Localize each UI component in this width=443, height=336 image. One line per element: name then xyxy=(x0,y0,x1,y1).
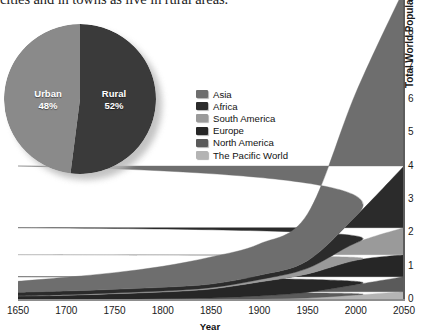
figure-page: cities and in towns as live in rural are… xyxy=(0,0,443,336)
x-axis-tick-label: 1700 xyxy=(46,305,86,316)
pie-slice-name-urban: Urban xyxy=(34,88,61,99)
y-axis-tick-label: 2 xyxy=(408,226,422,237)
legend-item: The Pacific World xyxy=(196,149,316,161)
pie-slice-label-rural: Rural 52% xyxy=(86,88,142,111)
x-axis-tick-label: 1800 xyxy=(143,305,183,316)
chart-legend: AsiaAfricaSouth AmericaEuropeNorth Ameri… xyxy=(196,88,316,161)
x-axis-tick-label: 1900 xyxy=(239,305,279,316)
y-axis-tick-label: 3 xyxy=(408,193,422,204)
legend-item: Europe xyxy=(196,125,316,137)
x-axis-line xyxy=(18,299,405,301)
legend-item-label: Asia xyxy=(213,89,232,100)
y-axis-tick-label: 0 xyxy=(408,293,422,304)
pie-slice-percent-rural: 52% xyxy=(104,100,123,111)
legend-item: North America xyxy=(196,137,316,149)
legend-item-label: The Pacific World xyxy=(213,150,288,161)
legend-item-label: South America xyxy=(213,113,275,124)
legend-item: South America xyxy=(196,112,316,124)
legend-swatch-icon xyxy=(196,139,208,147)
pie-slice-label-urban: Urban 48% xyxy=(20,88,76,111)
legend-item-label: Europe xyxy=(213,125,244,136)
pie-slice-percent-urban: 48% xyxy=(38,100,57,111)
y-axis-tick-label: 6 xyxy=(408,93,422,104)
y-axis-tick-label: 1 xyxy=(408,260,422,271)
x-axis-title: Year xyxy=(180,321,240,332)
urban-rural-pie-chart: Urban 48% Rural 52% xyxy=(4,24,164,180)
x-axis-tick-label: 1850 xyxy=(191,305,231,316)
y-axis-tick-label: 4 xyxy=(408,160,422,171)
legend-item: Africa xyxy=(196,100,316,112)
pie-slice-name-rural: Rural xyxy=(102,88,126,99)
legend-swatch-icon xyxy=(196,151,208,159)
legend-swatch-icon xyxy=(196,127,208,135)
legend-item-label: North America xyxy=(213,137,274,148)
legend-item-label: Africa xyxy=(213,101,238,112)
x-axis-tick-label: 1750 xyxy=(95,305,135,316)
y-axis-title: Total World Population (in billions) xyxy=(404,0,415,88)
y-axis-title-strong: Total World Population xyxy=(404,0,415,88)
legend-item: Asia xyxy=(196,88,316,100)
y-axis-tick-label: 5 xyxy=(408,126,422,137)
legend-swatch-icon xyxy=(196,90,208,98)
x-axis-tick-label: 1650 xyxy=(0,305,38,316)
x-axis-tick-label: 2000 xyxy=(336,305,376,316)
x-axis-tick-label: 1950 xyxy=(288,305,328,316)
legend-swatch-icon xyxy=(196,102,208,110)
x-axis-tick-label: 2050 xyxy=(384,305,424,316)
legend-swatch-icon xyxy=(196,114,208,122)
